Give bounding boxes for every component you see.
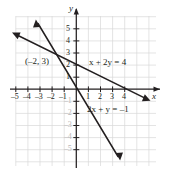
x-axis-arrowhead: [154, 87, 161, 92]
line-2x-plus-y-equals-minus-1: [38, 24, 118, 157]
line-2-arrowhead-bottom: [116, 152, 123, 160]
axis-lines: [10, 9, 160, 168]
grid-lines: [16, 16, 156, 166]
y-axis-arrowhead: [74, 8, 79, 15]
coordinate-plane-svg: [0, 0, 171, 172]
graph-figure: x y –5 –4 –3 –2 –1 1 2 3 4 5 4 3 2 1 –1 …: [0, 0, 171, 172]
axis-arrowheads: [74, 8, 160, 92]
line-2-arrowhead-top: [33, 20, 40, 28]
